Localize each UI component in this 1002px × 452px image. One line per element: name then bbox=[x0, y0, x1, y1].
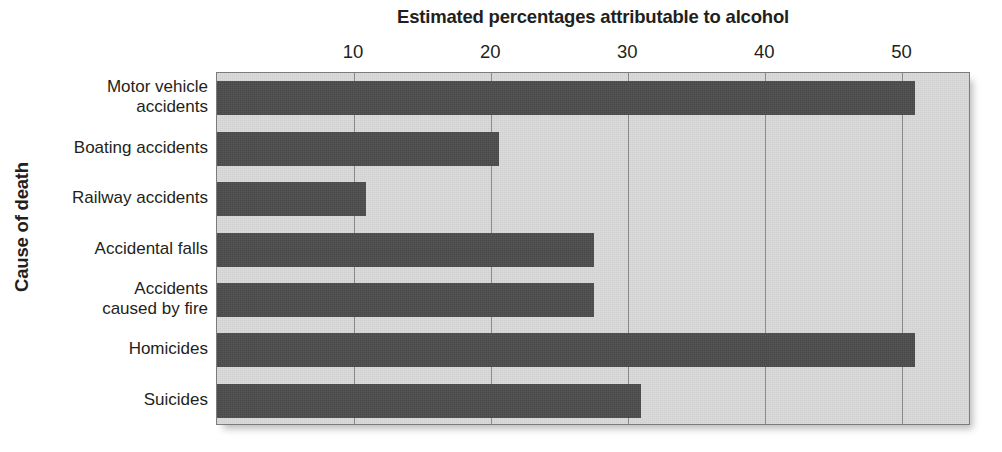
bar bbox=[217, 333, 915, 367]
bar bbox=[217, 132, 499, 166]
chart-title: Estimated percentages attributable to al… bbox=[216, 6, 970, 28]
y-axis-category-label: Railway accidents bbox=[40, 188, 208, 208]
x-axis-tick-label: 20 bbox=[480, 41, 501, 63]
y-axis-category-label-line: Railway accidents bbox=[40, 188, 208, 208]
y-axis-category-label: Accidentscaused by fire bbox=[40, 279, 208, 319]
gridline bbox=[628, 73, 629, 424]
x-axis-tick-label: 50 bbox=[891, 41, 912, 63]
x-axis-tick-label: 30 bbox=[617, 41, 638, 63]
y-axis-category-label-line: Homicides bbox=[40, 339, 208, 359]
y-axis-category-label-line: Motor vehicle bbox=[40, 77, 208, 97]
bar bbox=[217, 182, 366, 216]
x-axis-tick-label: 10 bbox=[343, 41, 364, 63]
y-axis-category-label: Accidental falls bbox=[40, 239, 208, 259]
bar bbox=[217, 233, 594, 267]
y-axis-category-label: Motor vehicleaccidents bbox=[40, 77, 208, 117]
bar bbox=[217, 384, 641, 418]
y-axis-category-label: Homicides bbox=[40, 339, 208, 359]
bar-chart-figure: Estimated percentages attributable to al… bbox=[0, 0, 1002, 452]
plot-area bbox=[216, 72, 970, 425]
y-axis-category-label-line: Accidents bbox=[40, 279, 208, 299]
bar bbox=[217, 283, 594, 317]
y-axis-title: Cause of death bbox=[11, 147, 33, 307]
bar bbox=[217, 81, 915, 115]
y-axis-category-label-line: accidents bbox=[40, 97, 208, 117]
y-axis-category-label-group: Motor vehicleaccidentsBoating accidentsR… bbox=[40, 72, 208, 425]
y-axis-category-label: Suicides bbox=[40, 390, 208, 410]
x-axis-tick-label-group: 1020304050 bbox=[0, 41, 1002, 67]
y-axis-category-label-line: caused by fire bbox=[40, 299, 208, 319]
y-axis-category-label-line: Accidental falls bbox=[40, 239, 208, 259]
gridline bbox=[902, 73, 903, 424]
y-axis-category-label-line: Suicides bbox=[40, 390, 208, 410]
y-axis-category-label-line: Boating accidents bbox=[40, 138, 208, 158]
x-axis-tick-label: 40 bbox=[754, 41, 775, 63]
y-axis-category-label: Boating accidents bbox=[40, 138, 208, 158]
gridline bbox=[765, 73, 766, 424]
